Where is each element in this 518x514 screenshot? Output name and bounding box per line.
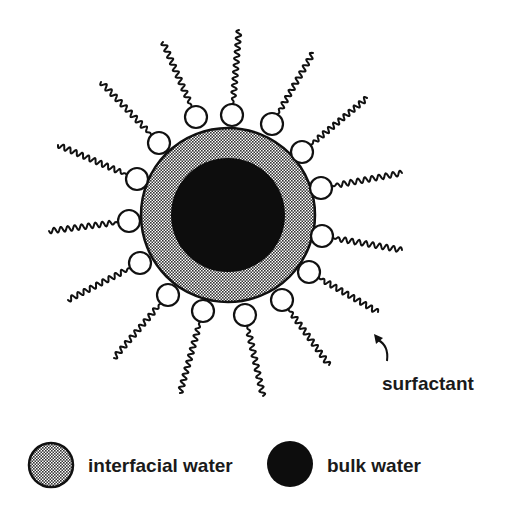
surfactant-head <box>298 261 320 283</box>
surfactant-head <box>311 225 333 247</box>
surfactant-tail <box>231 30 241 104</box>
bulk-water-swatch-icon <box>267 441 313 487</box>
surfactant-head <box>261 113 283 135</box>
surfactant-head <box>126 168 148 190</box>
surfactant-tail <box>68 268 130 301</box>
surfactant-head <box>148 132 170 154</box>
surfactant-tail <box>114 303 161 358</box>
micelle-core <box>141 128 315 302</box>
surfactant-head <box>185 106 207 128</box>
surfactant-tail <box>100 82 151 135</box>
surfactant-tail <box>179 322 200 393</box>
surfactant-tail <box>161 42 191 107</box>
legend-label-bulk-water: bulk water <box>327 456 421 475</box>
bulk-water-core <box>171 158 285 272</box>
surfactant-tail <box>333 237 402 251</box>
surfactant-label: surfactant <box>382 374 474 393</box>
surfactant-tail <box>288 309 330 365</box>
surfactant-tail <box>319 278 379 312</box>
surfactant-head <box>157 284 179 306</box>
surfactant-head <box>192 300 214 322</box>
surfactant-tail <box>278 53 314 115</box>
surfactant-head <box>118 210 140 232</box>
surfactant-tail <box>310 97 367 145</box>
interfacial-water-swatch-icon <box>29 443 73 487</box>
surfactant-tail <box>49 221 118 234</box>
surfactant-head <box>271 289 293 311</box>
surfactant-head <box>234 304 256 326</box>
surfactant-head <box>310 177 332 199</box>
micelle-diagram <box>0 0 518 514</box>
surfactant-annotation <box>374 334 387 361</box>
surfactant-tail <box>247 326 265 396</box>
surfactant-tail <box>332 171 402 187</box>
surfactant-head <box>221 104 243 126</box>
surfactant-tail <box>58 145 127 175</box>
surfactant-head <box>129 252 151 274</box>
arrow-icon <box>378 340 387 361</box>
surfactant-head <box>291 141 313 163</box>
legend-label-interfacial-water: interfacial water <box>88 456 233 475</box>
